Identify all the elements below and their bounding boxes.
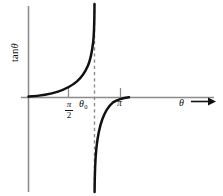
fraction-numerator: π [61,100,77,109]
tangent-function-figure: tanθ π 2 θ0 π θ [0,0,223,196]
x-axis-arrow-head [208,98,216,106]
asymptote-label-subscript: 0 [84,103,87,110]
asymptote-label-theta-zero: θ0 [79,99,87,109]
tan-curve-right-branch [95,97,129,192]
y-axis-label: tanθ [10,43,21,62]
y-axis-label-function: tan [9,49,20,62]
y-axis-label-variable: θ [9,43,20,48]
plot-area [0,0,223,196]
x-tick-label-pi: π [117,99,122,109]
x-tick-label-pi-over-2: π 2 [61,100,77,121]
tan-curve-left-branch [29,4,95,97]
x-axis-label: θ [179,98,184,108]
fraction-denominator: 2 [61,111,77,120]
